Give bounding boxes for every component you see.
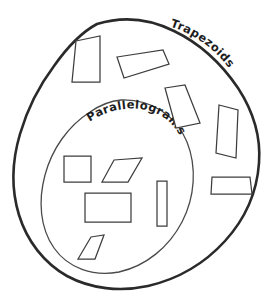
square-inner-left xyxy=(64,156,91,182)
trapezoid-top-left xyxy=(72,36,100,82)
trapezoid-lower-right xyxy=(211,177,252,194)
rectangle-inner-tall xyxy=(157,181,167,226)
rectangle-inner-wide xyxy=(85,193,131,222)
trapezoid-right-tall xyxy=(216,105,238,158)
venn-diagram-canvas: Trapezoids Parallelograms xyxy=(0,0,279,306)
set-diagram: Trapezoids Parallelograms xyxy=(0,0,279,306)
